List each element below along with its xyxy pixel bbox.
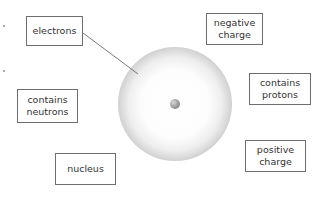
label-nucleus[interactable]: nucleus — [55, 153, 116, 185]
label-negative-charge[interactable]: negative charge — [206, 13, 263, 45]
label-positive-charge[interactable]: positive charge — [245, 140, 306, 172]
label-contains-neutrons[interactable]: contains neutrons — [17, 89, 78, 123]
label-electrons[interactable]: electrons — [26, 16, 83, 46]
label-contains-protons[interactable]: contains protons — [249, 73, 311, 105]
